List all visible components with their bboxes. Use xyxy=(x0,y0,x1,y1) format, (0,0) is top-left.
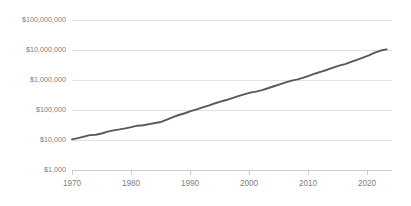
y-tick-label-100000000: $100,000,000 xyxy=(22,15,66,24)
x-axis-tick-labels: 1970 1980 1990 2000 2010 2020 xyxy=(63,179,377,188)
series-line-value xyxy=(72,49,387,139)
y-tick-label-1000000: $1,000,000 xyxy=(30,75,66,84)
y-tick-label-100000: $100,000 xyxy=(36,105,66,114)
gridlines xyxy=(72,20,392,140)
x-tick-label-2000: 2000 xyxy=(240,179,259,188)
line-chart: $100,000,000 $10,000,000 $1,000,000 $100… xyxy=(0,0,411,206)
y-tick-label-1000: $1,000 xyxy=(44,165,66,174)
x-tick-label-1990: 1990 xyxy=(181,179,200,188)
data-series-group xyxy=(72,49,387,139)
x-axis xyxy=(72,170,392,175)
chart-canvas: $100,000,000 $10,000,000 $1,000,000 $100… xyxy=(0,0,411,206)
y-axis-tick-labels: $100,000,000 $10,000,000 $1,000,000 $100… xyxy=(22,15,66,174)
x-tick-label-2010: 2010 xyxy=(299,179,318,188)
x-tick-label-1970: 1970 xyxy=(63,179,82,188)
y-tick-label-10000: $10,000 xyxy=(40,135,66,144)
y-tick-label-10000000: $10,000,000 xyxy=(26,45,66,54)
x-tick-label-2020: 2020 xyxy=(358,179,377,188)
x-tick-label-1980: 1980 xyxy=(122,179,141,188)
